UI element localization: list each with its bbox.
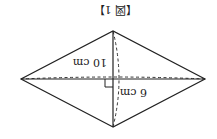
long-diagonal-label: 10 cm: [72, 56, 107, 69]
short-diagonal-label: 6 cm: [119, 86, 147, 99]
right-angle-mark: [105, 79, 113, 87]
rhombus-diagram: 6 cm 10 cm 【図 1】: [0, 0, 217, 139]
figure-stage: 6 cm 10 cm 【図 1】: [0, 0, 217, 139]
figure-caption: 【図 1】: [94, 3, 138, 16]
